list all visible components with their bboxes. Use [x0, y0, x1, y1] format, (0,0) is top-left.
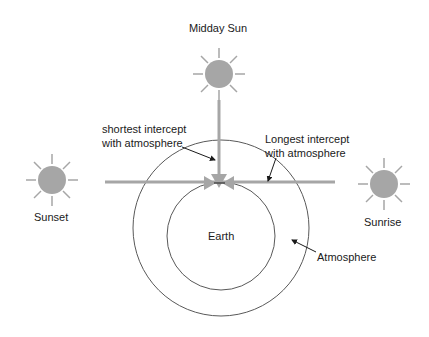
atmosphere-label: Atmosphere	[317, 250, 376, 264]
diagram-canvas	[0, 0, 429, 337]
sunset-sun-icon	[26, 154, 78, 206]
sunrise-label: Sunrise	[364, 215, 401, 229]
longest-intercept-label-line1: Longest intercept	[265, 132, 349, 146]
sunrise-sun-icon	[358, 158, 410, 210]
atmosphere-pointer-arrow	[292, 240, 316, 252]
shortest-intercept-label-line2: with atmosphere	[102, 136, 183, 150]
midday-sun-icon	[193, 48, 245, 100]
midday-sun-label: Midday Sun	[189, 21, 247, 35]
longest-pointer-arrow	[268, 158, 276, 181]
sunset-label: Sunset	[34, 210, 68, 224]
longest-intercept-label-line2: with atmosphere	[265, 146, 346, 160]
earth-label: Earth	[208, 229, 234, 243]
shortest-pointer-arrow	[182, 147, 215, 160]
shortest-intercept-label-line1: shortest intercept	[102, 122, 186, 136]
